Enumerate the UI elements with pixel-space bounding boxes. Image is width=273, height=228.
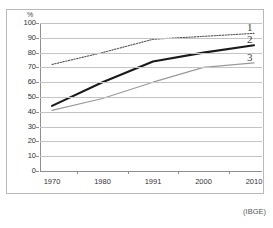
x-axis-tick-mark [229,171,230,174]
source-note: (IBGE) [243,207,266,216]
y-axis-tick-label: 50 [12,93,36,101]
y-axis-tick-mark [36,127,39,128]
y-axis-tick-label: 90 [12,34,36,42]
x-axis-tick-labels: 19701980199120002010 [40,177,262,189]
y-axis-tick-mark [36,171,39,172]
y-axis-tick-label: 100 [12,19,36,27]
gridline [40,97,262,98]
y-axis-tick-mark [36,67,39,68]
x-axis-tick-mark [178,171,179,174]
y-axis-tick-mark [36,141,39,142]
x-axis-tick-marks [40,171,262,175]
y-axis-tick-label: 0 [12,167,36,175]
gridline [40,23,262,24]
gridline [40,82,262,83]
y-axis-tick-mark [36,97,39,98]
y-axis-tick-mark [36,38,39,39]
y-axis-tick-mark [36,53,39,54]
gridline [40,127,262,128]
x-axis-tick-label: 2010 [246,177,263,186]
cropped-caption-strip [8,0,265,7]
gridline [40,53,262,54]
y-axis-tick-label: 80 [12,49,36,57]
gridline [40,141,262,142]
x-axis-tick-label: 2000 [195,177,212,186]
chart-figure: % 1009080706050403020100 197019801991200… [0,0,273,228]
x-axis-tick-label: 1970 [44,177,61,186]
y-axis-tick-label: 10 [12,152,36,160]
y-axis-tick-mark [36,112,39,113]
y-axis-tick-label: 40 [12,108,36,116]
y-axis-tick-label: 20 [12,137,36,145]
y-axis-tick-label: 70 [12,63,36,71]
line-series-3 [52,63,254,110]
y-axis-tick-label: 60 [12,78,36,86]
plot-area [40,23,262,171]
gridline [40,156,262,157]
x-axis-tick-mark [77,171,78,174]
series-label-3: 3 [247,52,253,63]
series-label-1: 1 [247,22,253,33]
gridline [40,38,262,39]
x-axis-tick-label: 1991 [145,177,162,186]
y-axis-tick-mark [36,82,39,83]
y-axis-tick-mark [36,23,39,24]
series-label-2: 2 [247,34,253,45]
x-axis-tick-label: 1980 [94,177,111,186]
y-axis-tick-mark [36,156,39,157]
gridline [40,112,262,113]
gridline [40,67,262,68]
x-axis-tick-mark [128,171,129,174]
y-axis-tick-labels: 1009080706050403020100 [8,23,36,171]
y-axis-tick-label: 30 [12,123,36,131]
